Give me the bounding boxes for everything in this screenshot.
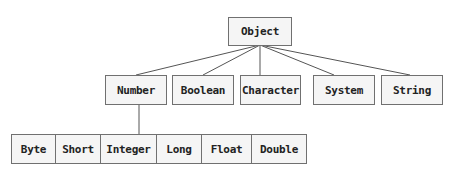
class-hierarchy-diagram: Object Number Boolean Character System S… — [0, 0, 453, 177]
node-double: Double — [251, 134, 307, 164]
node-string: String — [381, 75, 443, 105]
edge-object-system — [260, 45, 334, 75]
edge-object-string — [260, 45, 410, 75]
edge-object-boolean — [203, 45, 260, 75]
node-number: Number — [105, 75, 167, 105]
node-long: Long — [156, 134, 202, 164]
node-boolean: Boolean — [172, 75, 234, 105]
node-float: Float — [201, 134, 252, 164]
node-integer: Integer — [100, 134, 157, 164]
node-system: System — [313, 75, 375, 105]
node-character: Character — [240, 75, 301, 105]
edge-object-number — [136, 45, 260, 75]
node-object: Object — [228, 17, 292, 46]
node-short: Short — [55, 134, 101, 164]
node-byte: Byte — [11, 134, 56, 164]
